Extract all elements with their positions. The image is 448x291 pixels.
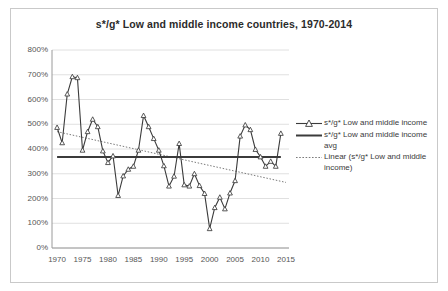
data-point-marker (116, 193, 121, 197)
data-point-marker (187, 184, 192, 188)
legend-key-dotted-line (296, 152, 322, 163)
legend-label-trendline: Linear (s*/g* Low and middle income) (322, 152, 438, 173)
y-axis-tick-label: 700% (12, 70, 48, 79)
y-axis-tick-label: 300% (12, 169, 48, 178)
data-point-marker (55, 125, 60, 129)
legend-key-line-with-triangle-marker (296, 118, 322, 129)
y-axis-tick-label: 600% (12, 95, 48, 104)
y-axis-tick-label: 200% (12, 194, 48, 203)
data-point-marker (177, 141, 182, 145)
main-data-markers (55, 74, 284, 230)
y-axis-tick-label: 100% (12, 218, 48, 227)
data-point-marker (278, 131, 283, 135)
legend-key-solid-line (296, 130, 322, 141)
legend-label-main: s*/g* Low and middle income (322, 118, 438, 129)
legend-item-trendline: Linear (s*/g* Low and middle income) (296, 152, 438, 173)
y-axis-tick-label: 500% (12, 119, 48, 128)
legend-label-avg: s*/g* Low and middle income avg (322, 130, 438, 151)
data-point-marker (192, 171, 197, 175)
data-point-marker (197, 183, 202, 187)
data-point-marker (146, 124, 151, 128)
data-point-marker (238, 134, 243, 138)
data-point-marker (243, 122, 248, 126)
data-point-marker (233, 178, 238, 182)
data-point-marker (136, 148, 141, 152)
data-point-marker (253, 147, 258, 151)
y-axis-tick-label: 800% (12, 45, 48, 54)
data-point-marker (217, 195, 222, 199)
data-point-marker (212, 205, 217, 209)
data-point-marker (65, 92, 70, 96)
data-point-marker (111, 153, 116, 157)
data-point-marker (156, 148, 161, 152)
data-point-marker (85, 129, 90, 133)
data-point-marker (268, 159, 273, 163)
data-point-marker (182, 182, 187, 186)
chart-figure: s*/g* Low and middle income countries, 1… (0, 0, 448, 291)
data-point-marker (228, 191, 233, 195)
legend-item-avg: s*/g* Low and middle income avg (296, 130, 438, 151)
data-point-marker (172, 174, 177, 178)
data-point-marker (141, 113, 146, 117)
data-point-marker (223, 206, 228, 210)
data-point-marker (207, 226, 212, 230)
data-point-marker (162, 163, 167, 167)
data-point-marker (131, 164, 136, 168)
gridlines (52, 50, 289, 248)
data-point-marker (167, 184, 172, 188)
y-axis-tick-label: 0% (12, 243, 48, 252)
data-point-marker (90, 117, 95, 121)
x-axis-tick-label: 2015 (270, 255, 302, 264)
data-point-marker (126, 167, 131, 171)
legend-item-main: s*/g* Low and middle income (296, 118, 438, 129)
data-point-marker (151, 136, 156, 140)
data-point-marker (80, 148, 85, 152)
chart-legend: s*/g* Low and middle income s*/g* Low an… (296, 118, 438, 174)
data-point-marker (60, 140, 65, 144)
data-point-marker (75, 75, 80, 79)
y-axis-tick-label: 400% (12, 144, 48, 153)
